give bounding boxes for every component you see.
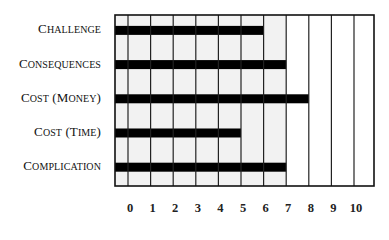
category-label: Cost (Time)	[34, 125, 101, 140]
category-label: Challenge	[38, 22, 101, 37]
x-tick-label: 1	[149, 201, 155, 216]
category-label: Cost (Money)	[21, 91, 101, 106]
x-tick-label: 5	[240, 201, 246, 216]
x-tick-label: 8	[308, 201, 314, 216]
x-tick-label: 7	[285, 201, 291, 216]
x-tick-label: 4	[217, 201, 223, 216]
x-tick-label: 2	[172, 201, 178, 216]
bar-cost-time	[115, 128, 241, 137]
bar-cost-money	[115, 94, 309, 103]
x-tick-label: 10	[350, 201, 363, 216]
bar-consequences	[115, 60, 286, 69]
x-tick-label: 3	[195, 201, 201, 216]
category-label: Consequences	[19, 57, 101, 72]
bar-complication	[115, 163, 286, 172]
x-tick-label: 9	[330, 201, 336, 216]
x-tick-label: 0	[127, 201, 133, 216]
category-label: Complication	[23, 159, 101, 174]
x-tick-label: 6	[262, 201, 268, 216]
